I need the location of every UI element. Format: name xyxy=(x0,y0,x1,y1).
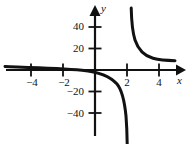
y-axis-label: y xyxy=(101,3,106,14)
x-tick-label-2: 2 xyxy=(119,77,135,88)
x-tick-label-neg4: −4 xyxy=(22,77,42,88)
x-axis-label: x xyxy=(177,75,182,86)
curve-right-branch xyxy=(131,8,175,61)
graph-canvas xyxy=(0,0,193,144)
x-tick-label-neg2: −2 xyxy=(54,77,74,88)
rational-function-figure: 40 20 −20 −40 −4 −2 2 4 x y xyxy=(0,0,193,144)
y-tick-label-neg40: −40 xyxy=(52,108,84,119)
y-tick-label-40: 40 xyxy=(58,21,84,32)
x-tick-label-4: 4 xyxy=(151,77,167,88)
y-tick-label-20: 20 xyxy=(58,43,84,54)
